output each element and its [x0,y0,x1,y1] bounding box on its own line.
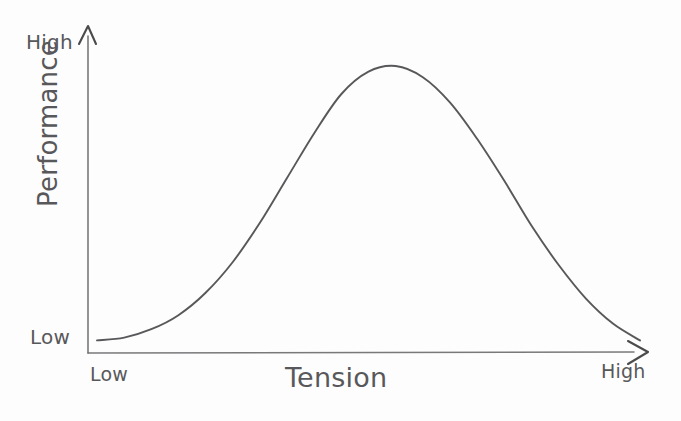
x-axis-tick-high: High [601,360,645,382]
chart-figure: High Low Performance Low High Tension [0,0,681,421]
chart-canvas [0,0,681,421]
performance-curve [97,66,640,341]
x-axis-tick-low: Low [90,363,128,385]
x-axis-line [88,352,634,353]
y-axis-tick-low: Low [30,325,70,349]
x-axis-title: Tension [285,362,387,393]
y-axis-title: Performance [33,67,63,207]
